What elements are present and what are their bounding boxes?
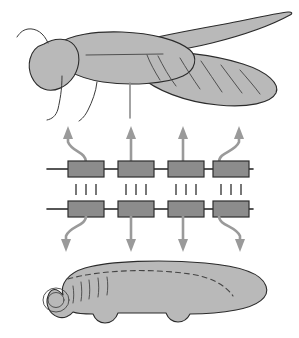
correspondence-tick-marks: [76, 184, 241, 195]
fly-antenna: [17, 29, 48, 43]
larva-body: [47, 261, 267, 323]
panel-gene-cluster: [47, 126, 253, 252]
hox-gene-figure: [0, 0, 299, 338]
gene-box-3: [168, 161, 204, 177]
arrow-gene-5: [61, 216, 86, 252]
downward-expression-arrows: [61, 216, 245, 252]
lower-dna-strand: [47, 201, 253, 217]
gene-box-4: [213, 161, 249, 177]
panel-larva: [43, 261, 267, 323]
arrow-gene-8: [219, 216, 245, 252]
figure-root: Hox gene cluster regulating adult fly an…: [0, 0, 299, 338]
tick-group-4: [221, 184, 241, 195]
tick-group-1: [76, 184, 96, 195]
fly-leg: [79, 82, 97, 121]
fly-head: [29, 39, 79, 90]
arrow-gene-4: [219, 126, 244, 162]
gene-box-7: [168, 201, 204, 217]
tick-group-3: [176, 184, 196, 195]
upper-dna-strand: [47, 161, 253, 177]
arrow-gene-1: [63, 126, 86, 162]
gene-box-6: [118, 201, 154, 217]
gene-box-5: [68, 201, 104, 217]
upward-expression-arrows: [63, 126, 244, 162]
arrow-gene-6: [126, 216, 136, 252]
arrow-gene-7: [178, 216, 188, 252]
arrow-gene-2: [126, 126, 136, 162]
gene-box-2: [118, 161, 154, 177]
arrow-gene-3: [178, 126, 188, 162]
panel-adult-fly: [17, 12, 292, 121]
tick-group-2: [126, 184, 146, 195]
gene-box-1: [68, 161, 104, 177]
gene-box-8: [213, 201, 249, 217]
